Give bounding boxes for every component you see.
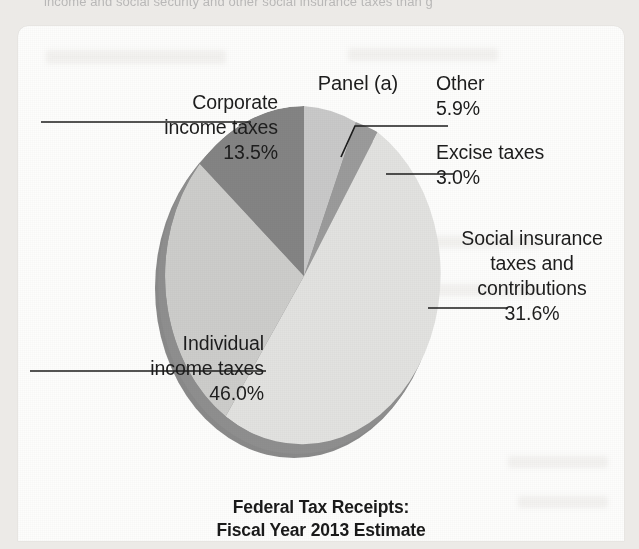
- label-corporate-income-taxes: Corporate income taxes 13.5%: [46, 90, 278, 165]
- label-excise-taxes: Excise taxes 3.0%: [436, 140, 624, 190]
- label-social-insurance: Social insurance taxes and contributions…: [430, 226, 624, 326]
- figure-card: Panel (a) Corporate income taxes 13.5% I…: [18, 26, 624, 541]
- label-other: Other 5.9%: [436, 71, 624, 121]
- panel-label: Panel (a): [273, 71, 443, 96]
- scanned-page-header-text: income and social security and other soc…: [0, 0, 639, 10]
- chart-caption: Federal Tax Receipts: Fiscal Year 2013 E…: [18, 496, 624, 541]
- label-individual-income-taxes: Individual income taxes 46.0%: [32, 331, 264, 406]
- pie-chart: Panel (a) Corporate income taxes 13.5% I…: [18, 26, 624, 541]
